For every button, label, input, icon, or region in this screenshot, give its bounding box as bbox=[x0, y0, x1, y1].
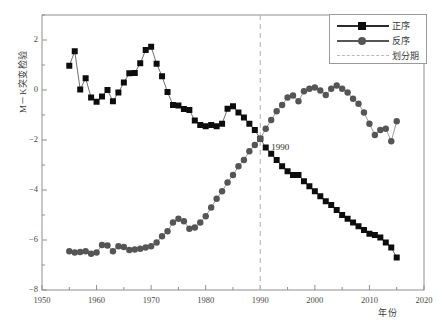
legend-item-division[interactable]: 划分期 bbox=[335, 49, 423, 63]
legend-label-forward: 正序 bbox=[392, 19, 410, 33]
x-tick-label: 1960 bbox=[83, 295, 111, 305]
legend-swatch-reverse bbox=[337, 40, 389, 42]
circle-marker-icon bbox=[358, 37, 366, 45]
legend-swatch-forward bbox=[337, 25, 389, 27]
legend-swatch-division bbox=[337, 55, 389, 57]
mk-mutation-test-chart: M－K突变检验 年份 19501960197019801990200020102… bbox=[0, 0, 438, 336]
legend-label-reverse: 反序 bbox=[392, 34, 410, 48]
x-tick-label: 2000 bbox=[301, 295, 329, 305]
x-tick-label: 1980 bbox=[192, 295, 220, 305]
dashed-line-icon bbox=[337, 55, 389, 56]
chart-legend: 正序 反序 划分期 bbox=[329, 14, 427, 64]
x-tick-label: 1970 bbox=[137, 295, 165, 305]
x-tick-label: 2020 bbox=[410, 295, 438, 305]
y-tick-label: 0 bbox=[18, 84, 38, 94]
y-tick-label: 2 bbox=[18, 34, 38, 44]
y-tick-label: −4 bbox=[18, 184, 38, 194]
x-tick-label: 2010 bbox=[355, 295, 383, 305]
y-tick-label: −8 bbox=[18, 284, 38, 294]
legend-label-division: 划分期 bbox=[392, 49, 419, 63]
y-tick-label: −2 bbox=[18, 134, 38, 144]
legend-item-reverse[interactable]: 反序 bbox=[335, 34, 423, 48]
y-tick-label: −6 bbox=[18, 234, 38, 244]
x-tick-label: 1950 bbox=[28, 295, 56, 305]
square-marker-icon bbox=[358, 22, 366, 30]
x-tick-label: 1990 bbox=[246, 295, 274, 305]
annotation-1990: 1990 bbox=[271, 142, 289, 152]
legend-item-forward[interactable]: 正序 bbox=[335, 19, 423, 33]
x-axis-title: 年份 bbox=[378, 306, 397, 319]
